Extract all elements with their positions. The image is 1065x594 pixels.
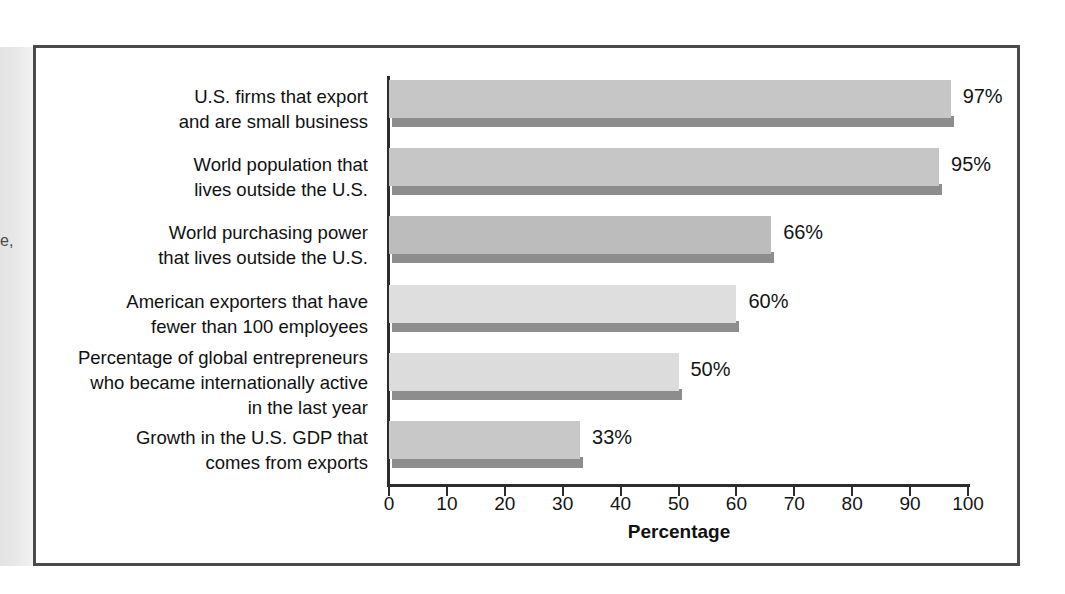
bar[interactable]: [389, 285, 736, 323]
bar-row: 50%: [389, 353, 799, 401]
bar-value-label: 95%: [951, 153, 991, 176]
bar[interactable]: [389, 80, 951, 118]
x-axis-title: Percentage: [389, 521, 969, 543]
bar-value-label: 60%: [748, 290, 788, 313]
category-label: U.S. firms that export and are small bus…: [179, 84, 368, 134]
bar-value-label: 50%: [691, 358, 731, 381]
bar-row: 97%: [389, 80, 1065, 128]
x-axis-tick-label: 0: [384, 493, 395, 515]
x-axis-tick-label: 100: [952, 493, 984, 515]
x-axis-tick-label: 40: [610, 493, 631, 515]
bar[interactable]: [389, 148, 939, 186]
x-axis-tick-label: 80: [842, 493, 863, 515]
category-label: Growth in the U.S. GDP that comes from e…: [136, 425, 368, 475]
category-label: World population that lives outside the …: [194, 152, 369, 202]
x-axis-tick-label: 50: [668, 493, 689, 515]
x-axis-tick-label: 30: [552, 493, 573, 515]
bar-value-label: 33%: [592, 426, 632, 449]
page-canvas: e, Percentage 010203040506070809010097%U…: [0, 0, 1065, 594]
x-axis-tick-label: 70: [784, 493, 805, 515]
bar[interactable]: [389, 353, 679, 391]
x-axis-tick-label: 20: [494, 493, 515, 515]
category-label: Percentage of global entrepreneurs who b…: [78, 345, 368, 420]
bar-value-label: 66%: [783, 221, 823, 244]
category-label: World purchasing power that lives outsid…: [158, 220, 368, 270]
bar-row: 33%: [389, 421, 700, 469]
x-axis-tick-label: 10: [436, 493, 457, 515]
bar[interactable]: [389, 216, 771, 254]
x-axis-tick-label: 60: [726, 493, 747, 515]
bar-row: 95%: [389, 148, 1059, 196]
bar-value-label: 97%: [963, 85, 1003, 108]
bar-chart: Percentage 010203040506070809010097%U.S.…: [0, 0, 1065, 594]
x-axis-tick-label: 90: [900, 493, 921, 515]
bar[interactable]: [389, 421, 580, 459]
bar-row: 66%: [389, 216, 891, 264]
bar-row: 60%: [389, 285, 856, 333]
category-label: American exporters that have fewer than …: [126, 289, 368, 339]
